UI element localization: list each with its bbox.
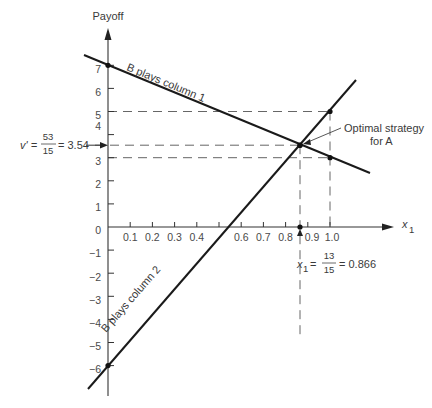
point-intersection xyxy=(297,142,303,148)
x-axis-label: x xyxy=(401,218,408,230)
point-x1-y5 xyxy=(327,109,332,114)
value-numerator: 53 xyxy=(43,131,54,142)
x-opt-label-suffix: = 0.866 xyxy=(339,258,376,270)
axes xyxy=(108,36,385,396)
x-opt-numerator: 13 xyxy=(324,250,335,261)
x-tick-label: 0.3 xyxy=(167,231,182,243)
value-arrow-icon xyxy=(100,142,108,148)
y-tick-label: 6 xyxy=(95,86,101,98)
x-tick-label: 0.1 xyxy=(123,231,138,243)
optimal-label-line2: for A xyxy=(370,135,393,147)
line1-label: B plays column 1 xyxy=(125,61,207,104)
point-x-opt xyxy=(297,224,302,229)
data-points xyxy=(105,63,332,369)
value-label-prefix: v' = xyxy=(20,139,38,151)
y-tick-label: 4 xyxy=(95,120,101,132)
y-tick-label: 7 xyxy=(95,63,101,75)
x-tick-labels: 0.1 0.2 0.3 0.4 0.6 0.7 0.8 0.9 1.0 xyxy=(123,231,340,243)
y-tick-label: −6 xyxy=(89,363,101,375)
y-tick-label: −5 xyxy=(89,340,101,352)
x-opt-label-eq: = xyxy=(310,258,316,270)
x-tick-label: 0.2 xyxy=(145,231,160,243)
x-opt-label-var: x xyxy=(296,258,303,270)
y-tick-label: 2 xyxy=(95,178,101,190)
y-axis-label: Payoff xyxy=(93,10,125,22)
x-axis-label-sub: 1 xyxy=(409,224,414,235)
x-tick-label: 0.7 xyxy=(256,231,271,243)
value-label-suffix: = 3.54 xyxy=(58,139,89,151)
x-opt-arrow-icon xyxy=(297,229,303,236)
y-tick-label: 1 xyxy=(95,201,101,213)
x-opt-denominator: 15 xyxy=(324,264,335,275)
y-tick-label: 0 xyxy=(95,224,101,236)
x-axis-arrow-icon xyxy=(382,224,394,231)
x-tick-label: 0.9 xyxy=(305,231,320,243)
y-axis-arrow-icon xyxy=(105,28,112,40)
y-tick-label: −1 xyxy=(89,247,101,259)
optimal-label-line1: Optimal strategy xyxy=(344,122,425,134)
y-tick-label: 3 xyxy=(95,155,101,167)
point-y-6 xyxy=(105,363,110,368)
x-tick-label: 0.4 xyxy=(189,231,204,243)
value-denominator: 15 xyxy=(43,145,54,156)
x-opt-label-sub: 1 xyxy=(303,263,308,274)
payoff-chart: 7 6 5 4 3 2 1 0 −1 −2 −3 −4 −5 −6 0.1 0.… xyxy=(0,0,432,408)
x-tick-label: 1.0 xyxy=(325,231,340,243)
point-y7 xyxy=(105,63,110,68)
y-tick-label: −3 xyxy=(89,294,101,306)
point-x1-y3 xyxy=(327,155,332,160)
y-tick-label: −2 xyxy=(89,271,101,283)
x-tick-label: 0.6 xyxy=(234,231,249,243)
x-tick-label: 0.8 xyxy=(278,231,293,243)
